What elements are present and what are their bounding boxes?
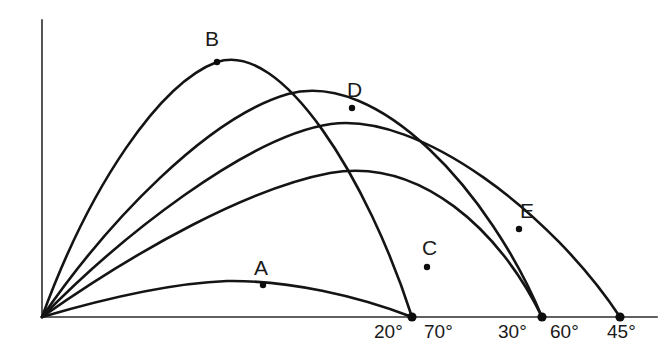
curve-label-a: A	[254, 257, 268, 278]
projectile-figure: A B C D E 20° 70° 30° 60° 45°	[0, 0, 665, 354]
trajectory-30deg	[42, 171, 542, 317]
angle-label-45: 45°	[607, 322, 636, 341]
landing-point-20-70	[407, 312, 416, 321]
curve-label-b: B	[205, 28, 219, 49]
marked-point-c	[424, 264, 430, 270]
marked-point-b	[214, 59, 220, 65]
trajectory-60deg	[42, 91, 542, 317]
angle-label-70: 70°	[424, 322, 453, 341]
angle-label-60: 60°	[550, 322, 579, 341]
trajectory-plot	[0, 0, 665, 354]
trajectory-20deg	[42, 281, 412, 317]
marked-point-e	[516, 226, 522, 232]
curve-label-e: E	[520, 200, 534, 221]
landing-point-30-60	[537, 312, 546, 321]
curve-label-d: D	[347, 79, 362, 100]
angle-label-30: 30°	[498, 322, 527, 341]
angle-label-20: 20°	[374, 322, 403, 341]
curve-label-c: C	[422, 237, 437, 258]
marked-point-a	[260, 282, 266, 288]
marked-point-d	[349, 105, 355, 111]
